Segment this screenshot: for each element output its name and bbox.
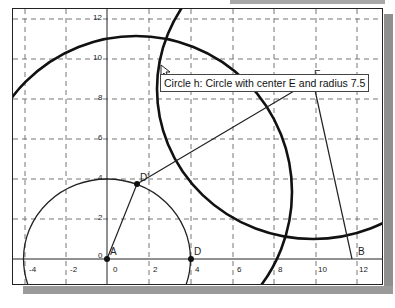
window-edge-bar [230, 0, 385, 4]
y-tick-label: 4 [98, 173, 103, 182]
circle-h[interactable] [157, 9, 383, 239]
x-tick-label: -4 [29, 265, 37, 274]
y-tick-label: 0 [98, 251, 103, 260]
x-tick-label: -2 [70, 265, 78, 274]
x-tick-label: 8 [278, 265, 283, 274]
y-tick-label: 12 [93, 13, 102, 22]
y-tick-label: 10 [93, 53, 102, 62]
geometry-canvas[interactable]: -4 -2 0 2 4 6 8 10 12 0 2 4 6 8 10 12 A … [13, 9, 383, 285]
label-d: D [194, 246, 201, 257]
x-tick-label: 6 [237, 265, 242, 274]
x-tick-label: 10 [318, 265, 327, 274]
frame-shadow-right [384, 14, 393, 294]
tooltip: Circle h: Circle with center E and radiu… [160, 74, 369, 92]
y-tick-label: 8 [98, 93, 103, 102]
y-tick-label: 2 [98, 213, 103, 222]
x-tick-label: 4 [195, 265, 200, 274]
frame-shadow-bottom [23, 286, 393, 294]
label-dprime: D' [140, 172, 149, 183]
label-a: A [110, 246, 117, 257]
x-tick-label: 2 [153, 265, 158, 274]
y-tick-label: 6 [98, 133, 103, 142]
x-tick-label: 0 [113, 265, 118, 274]
label-b: B [358, 246, 365, 257]
segment-e-b[interactable] [313, 81, 352, 259]
x-tick-label: 12 [359, 265, 368, 274]
graphics-view[interactable]: -4 -2 0 2 4 6 8 10 12 0 2 4 6 8 10 12 A … [12, 8, 383, 285]
